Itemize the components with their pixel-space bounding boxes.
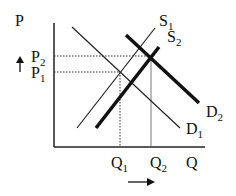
q2-label: Q2 bbox=[150, 154, 167, 174]
q1-label: Q1 bbox=[111, 154, 128, 174]
y-axis-label: P bbox=[15, 12, 24, 29]
d2-label: D2 bbox=[206, 103, 223, 123]
quantity-right-arrow-icon bbox=[128, 178, 155, 186]
x-axis-label: Q bbox=[186, 154, 198, 171]
price-up-arrow-icon bbox=[16, 56, 24, 72]
d1-label: D1 bbox=[186, 120, 203, 140]
demand-curve-d2 bbox=[126, 35, 199, 103]
supply-demand-diagram: P Q P2 P1 Q1 Q2 S1 S2 D2 D1 bbox=[0, 0, 236, 196]
s2-label: S2 bbox=[167, 28, 181, 48]
